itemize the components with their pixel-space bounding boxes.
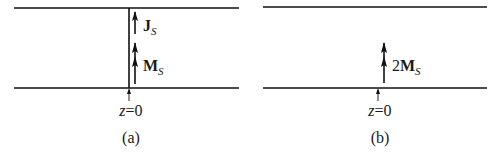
position-pointer-icon — [376, 88, 380, 101]
panel-caption: (b) — [371, 129, 390, 147]
panel-a: JS MS z=0 (a) — [14, 8, 239, 147]
vector-label-2ms: 2MS — [392, 57, 421, 77]
diagram-canvas: JS MS z=0 (a) 2MS — [0, 0, 499, 158]
position-pointer-icon — [127, 88, 131, 101]
panel-caption: (a) — [122, 129, 140, 147]
magnetization-arrow-icon — [381, 42, 387, 83]
panel-b: 2MS z=0 (b) — [263, 7, 487, 147]
vector-label-js: JS — [143, 17, 157, 37]
position-label: z=0 — [118, 102, 142, 119]
current-arrow-icon — [132, 11, 138, 34]
position-label: z=0 — [367, 102, 391, 119]
magnetization-arrow-icon — [132, 42, 138, 84]
vector-label-ms: MS — [143, 57, 164, 77]
